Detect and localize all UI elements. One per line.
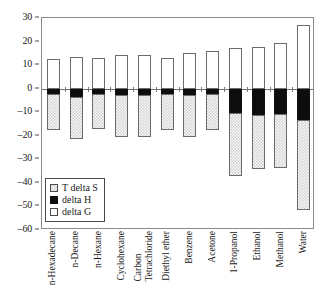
zero-baseline [42, 89, 313, 90]
bar-group [274, 18, 287, 228]
bar-group [161, 18, 174, 228]
bar-segment-t-delta-s [297, 120, 310, 210]
bar-segment-delta-h [252, 89, 265, 115]
y-axis-tick-label-9: –60 [18, 224, 32, 234]
x-axis-label-7: Acetone [207, 231, 218, 263]
bar-group [183, 18, 196, 228]
bar-segment-t-delta-s [183, 95, 196, 137]
x-axis-label-9: Ethanol [252, 231, 263, 261]
x-axis-label-5: Diethyl ether [161, 231, 172, 281]
x-axis-label-8: 1-Propanol [229, 231, 240, 273]
y-axis-tick-label-3: 0 [27, 83, 32, 93]
bar-segment-delta-h [229, 89, 242, 113]
bar-segment-delta-g [206, 51, 219, 89]
bar-segment-delta-g [70, 57, 83, 88]
legend-swatch-icon [50, 196, 58, 204]
y-axis-tick-mark [35, 229, 39, 230]
y-axis-tick-label-8: –50 [18, 200, 32, 210]
bar-segment-delta-g [47, 59, 60, 89]
x-axis-label-3: Cyclohexane [116, 231, 127, 281]
chart-legend: T delta Sdelta Hdelta G [45, 178, 105, 222]
x-axis-label-slot: Benzene [178, 229, 201, 300]
bar-segment-t-delta-s [47, 94, 60, 129]
bar-segment-t-delta-s [274, 114, 287, 169]
x-axis-label-line: Tetrachloride [144, 231, 155, 282]
y-axis-tick-label-4: –10 [18, 106, 32, 116]
bar-segment-delta-g [161, 58, 174, 88]
y-axis-tick-label-7: –40 [18, 177, 32, 187]
bar-segment-delta-g [274, 43, 287, 89]
bar-segment-t-delta-s [206, 94, 219, 130]
y-axis-tick-mark [35, 158, 39, 159]
zero-line-tick [247, 87, 248, 92]
x-axis-label-6: Benzene [184, 231, 195, 264]
zero-line-tick [201, 87, 202, 92]
x-axis-label-slot: Ethanol [246, 229, 269, 300]
bar-segment-t-delta-s [138, 95, 151, 137]
zero-line-tick [110, 87, 111, 92]
x-axis-label-11: Water [298, 231, 309, 253]
legend-item: delta G [50, 206, 98, 218]
y-axis: 3020100–10–20–30–40–50–60 [0, 17, 39, 229]
y-axis-tick-label-0: 30 [22, 12, 32, 22]
x-axis-label-0: n-Hexadecane [47, 231, 58, 285]
bar-segment-delta-h [274, 89, 287, 114]
x-axis-label-slot: Cyclohexane [109, 229, 132, 300]
bar-group [115, 18, 128, 228]
y-axis-tick-mark [35, 87, 39, 88]
x-axis-label-10: Methanol [275, 231, 286, 267]
x-axis-label-slot: Acetone [200, 229, 223, 300]
y-axis-tick-label-2: 10 [22, 59, 32, 69]
bar-segment-delta-g [138, 55, 151, 89]
y-axis-tick-mark [35, 205, 39, 206]
bar-segment-delta-g [229, 48, 242, 89]
x-axis-label-slot: n-Hexane [87, 229, 110, 300]
bar-segment-t-delta-s [70, 97, 83, 139]
bar-segment-delta-h [115, 89, 128, 96]
y-axis-tick-label-1: 20 [22, 36, 32, 46]
y-axis-tick-mark [35, 40, 39, 41]
x-axis-label-1: n-Decane [70, 231, 81, 267]
zero-line-tick [270, 87, 271, 92]
legend-swatch-icon [50, 208, 58, 216]
bar-segment-t-delta-s [252, 115, 265, 170]
legend-swatch-icon [50, 184, 58, 192]
bar-segment-delta-g [183, 53, 196, 89]
y-axis-tick-label-6: –30 [18, 153, 32, 163]
y-axis-tick-label-5: –20 [18, 130, 32, 140]
thermodynamics-bar-chart: 3020100–10–20–30–40–50–60 T delta Sdelta… [0, 0, 324, 300]
zero-line-tick [156, 87, 157, 92]
x-axis-category-labels: n-Hexadecanen-Decanen-HexaneCyclohexaneC… [41, 229, 314, 300]
x-axis-label-2: n-Hexane [93, 231, 104, 268]
x-axis-label-line: Carbon [133, 231, 144, 282]
x-axis-label-slot: 1-Propanol [223, 229, 246, 300]
legend-label: delta H [62, 195, 91, 205]
bar-segment-delta-g [252, 47, 265, 88]
bar-segment-delta-h [297, 89, 310, 120]
bar-segment-delta-g [115, 55, 128, 89]
bar-segment-delta-h [70, 89, 83, 97]
bar-group [252, 18, 265, 228]
y-axis-tick-mark [35, 134, 39, 135]
legend-item: delta H [50, 194, 98, 206]
x-axis-label-slot: n-Decane [64, 229, 87, 300]
bar-segment-t-delta-s [92, 94, 105, 130]
bar-segment-delta-g [92, 58, 105, 89]
x-axis-label-slot: CarbonTetrachloride [132, 229, 155, 300]
zero-line-tick [292, 87, 293, 92]
bar-group [297, 18, 310, 228]
bar-segment-t-delta-s [161, 94, 174, 130]
legend-label: delta G [62, 207, 91, 217]
zero-line-tick [88, 87, 89, 92]
bar-group [206, 18, 219, 228]
bar-group [229, 18, 242, 228]
x-axis-label-slot: Methanol [269, 229, 292, 300]
x-axis-label-slot: Water [291, 229, 314, 300]
bar-segment-t-delta-s [115, 95, 128, 137]
zero-line-tick [179, 87, 180, 92]
y-axis-tick-mark [35, 111, 39, 112]
zero-line-tick [133, 87, 134, 92]
bar-segment-delta-h [183, 89, 196, 96]
x-axis-label-4: CarbonTetrachloride [133, 231, 154, 282]
bar-group [138, 18, 151, 228]
